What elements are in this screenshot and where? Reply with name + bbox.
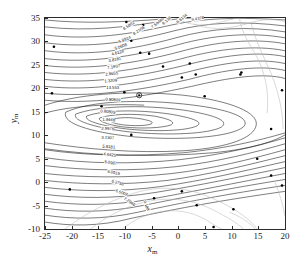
x-tick-label: 0 <box>166 231 190 241</box>
x-tickmark <box>98 226 99 230</box>
y-tick-label: 30 <box>18 36 40 46</box>
y-tick-label: 10 <box>18 130 40 140</box>
y-tickmark <box>44 112 48 113</box>
x-tick-label: -15 <box>86 231 110 241</box>
x-tickmark <box>178 226 179 230</box>
x-tick-label: -5 <box>140 231 164 241</box>
x-tick-label: 10 <box>220 231 244 241</box>
y-tickmark <box>44 135 48 136</box>
contour-plot-figure: 8.5802 8.2106 7.5948 8.138 8.6134 9.4378… <box>0 0 305 272</box>
y-tick-label: -5 <box>14 201 40 211</box>
x-tick-label: 15 <box>246 231 270 241</box>
y-tickmark <box>44 182 48 183</box>
x-tick-label: -10 <box>113 231 137 241</box>
y-tickmark <box>44 88 48 89</box>
y-tick-label: 20 <box>18 83 40 93</box>
x-tickmark <box>232 226 233 230</box>
y-axis-label-subscript: m <box>12 113 20 118</box>
contour-label: 2.9978 <box>101 126 115 132</box>
x-tickmark <box>152 226 153 230</box>
y-tick-label: 15 <box>18 107 40 117</box>
contour-label: 5.8181 <box>102 143 116 149</box>
x-tick-label: 5 <box>193 231 217 241</box>
y-tickmark <box>44 65 48 66</box>
y-tick-label: 0 <box>18 177 40 187</box>
x-tickmark <box>125 226 126 230</box>
x-tick-label: -20 <box>60 231 84 241</box>
y-tickmark <box>44 206 48 207</box>
contour-lines <box>45 18 285 229</box>
contour-label: 13.553 <box>106 85 119 90</box>
x-tickmark <box>45 226 46 230</box>
highlighted-data-point <box>137 93 142 98</box>
x-tickmark <box>258 226 259 230</box>
x-axis-label-subscript: m <box>152 248 157 256</box>
y-tickmark <box>44 41 48 42</box>
y-axis-label-base: y <box>8 119 19 123</box>
x-tickmark <box>72 226 73 230</box>
x-tickmark <box>205 226 206 230</box>
x-axis-label: xm <box>0 243 305 256</box>
x-tick-label: 20 <box>273 231 297 241</box>
y-tickmark <box>44 18 48 19</box>
x-tick-label: -25 <box>33 231 57 241</box>
contour-label: 3.1307 <box>101 135 115 141</box>
y-tick-label: 35 <box>18 13 40 23</box>
y-tickmark <box>44 159 48 160</box>
contour-label: 0.80809 <box>105 96 121 102</box>
y-axis-label: ym <box>8 88 21 148</box>
x-tickmark <box>285 226 286 230</box>
y-tick-label: 25 <box>18 60 40 70</box>
plot-area: 8.5802 8.2106 7.5948 8.138 8.6134 9.4378… <box>44 17 286 230</box>
y-tick-label: 5 <box>18 154 40 164</box>
contour-label: 1.9448 <box>102 117 116 123</box>
